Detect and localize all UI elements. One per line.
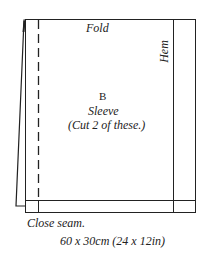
dimensions-label: 60 x 30cm (24 x 12in) [60,234,165,249]
back-layer-outline [16,20,25,206]
fold-label: Fold [86,21,109,36]
hem-label: Hem [157,40,172,63]
back-layer-edge-thick [24,21,25,32]
piece-instruction: (Cut 2 of these.) [68,118,145,133]
piece-name: Sleeve [88,104,119,119]
piece-letter: B [99,90,106,102]
seam-label: Close seam. [27,216,85,231]
